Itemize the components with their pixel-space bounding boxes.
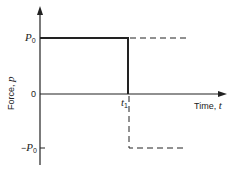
y-axis-label: Force, p (4, 76, 16, 110)
x-axis-arrow-icon (218, 91, 227, 97)
p0-tick-label: P0 (25, 32, 36, 44)
y-axis-arrow-icon (37, 6, 43, 15)
force-step-solid (40, 38, 128, 94)
force-dashed-lower (129, 96, 186, 148)
x-axis-label: Time, t (194, 100, 222, 111)
zero-tick-label: 0 (31, 90, 36, 99)
t1-tick-label: t1 (121, 97, 128, 109)
neg-p0-tick-label: −P0 (21, 142, 37, 154)
